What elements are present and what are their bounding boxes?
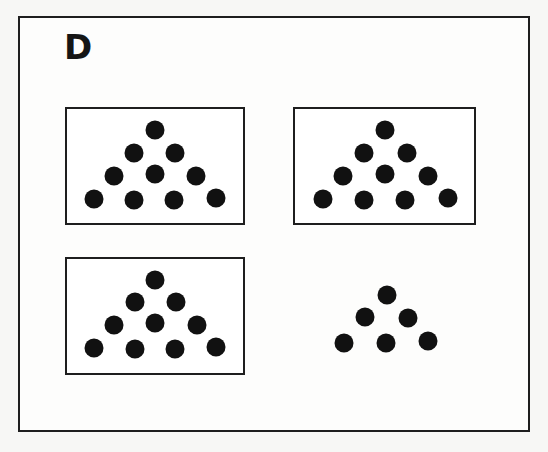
dot xyxy=(188,316,207,335)
dot xyxy=(376,165,395,184)
dot xyxy=(105,167,124,186)
dot xyxy=(146,121,165,140)
dot xyxy=(187,167,206,186)
dot xyxy=(105,316,124,335)
dot xyxy=(166,340,185,359)
dot xyxy=(207,189,226,208)
dot xyxy=(165,191,184,210)
dot xyxy=(419,167,438,186)
dot xyxy=(398,144,417,163)
dot xyxy=(125,191,144,210)
dot xyxy=(439,189,458,208)
dot xyxy=(355,191,374,210)
dot xyxy=(335,334,354,353)
dot xyxy=(376,121,395,140)
dot xyxy=(167,293,186,312)
dot xyxy=(166,144,185,163)
dot xyxy=(125,144,144,163)
dot xyxy=(146,271,165,290)
dot xyxy=(396,191,415,210)
dot xyxy=(355,144,374,163)
dot xyxy=(377,334,396,353)
dot xyxy=(334,167,353,186)
dot xyxy=(146,314,165,333)
dot xyxy=(314,190,333,209)
dot xyxy=(399,309,418,328)
dot xyxy=(419,332,438,351)
dot xyxy=(85,190,104,209)
dot xyxy=(207,338,226,357)
dot xyxy=(356,308,375,327)
dot xyxy=(378,286,397,305)
dot xyxy=(85,339,104,358)
dot xyxy=(126,293,145,312)
dot xyxy=(126,340,145,359)
dot xyxy=(146,165,165,184)
figure-label: D xyxy=(64,30,92,64)
